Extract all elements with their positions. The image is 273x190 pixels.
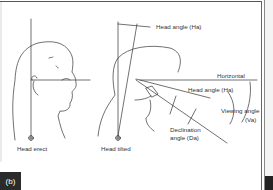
declination-tick bbox=[170, 96, 176, 114]
viewing-angle-label-line1: Viewing angle bbox=[221, 108, 259, 114]
viewing-angle-label-line2: (Va) bbox=[245, 117, 256, 123]
head-tilted-label: Head tilted bbox=[101, 146, 131, 152]
declination-label-line2: angle (Da) bbox=[170, 135, 199, 141]
head-erect-label: Head erect bbox=[17, 146, 47, 152]
head-tilted-axis-line bbox=[118, 24, 137, 136]
head-tilted-figure bbox=[98, 22, 257, 143]
horizontal-label: Horizontal bbox=[217, 73, 245, 79]
declination-label-line1: Declination bbox=[170, 127, 201, 133]
head-angle-top-label: Head angle (Ha) bbox=[156, 24, 201, 30]
head-angle-mid-label: Head angle (Ha) bbox=[188, 87, 233, 93]
head-posture-diagram bbox=[0, 0, 273, 190]
head-erect-figure bbox=[13, 19, 90, 141]
panel-label-tab: (b) bbox=[0, 172, 21, 190]
head-angle-arc-top bbox=[118, 24, 150, 27]
